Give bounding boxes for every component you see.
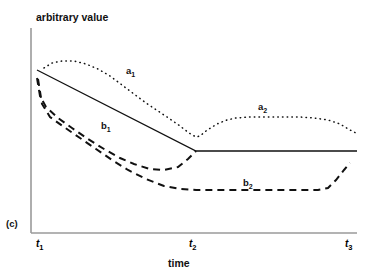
series-annotation-b1-subscript: 1: [107, 126, 111, 133]
series-dashed-b2: [38, 79, 350, 190]
panel-tag: (c): [6, 219, 18, 229]
series-annotation-b2-subscript: 2: [249, 183, 253, 190]
series-dotted-a1-a2: [44, 61, 356, 137]
x-tick-t2-subscript: 2: [192, 243, 196, 252]
series-annotation-a2-subscript: 2: [263, 107, 267, 114]
series-solid-reference: [37, 70, 357, 151]
x-axis-label: time: [168, 258, 190, 269]
chart-canvas: [0, 0, 369, 279]
series-annotation-b1: b1: [101, 120, 111, 133]
x-tick-t2: t2: [189, 238, 197, 252]
series-annotation-b2: b2: [243, 177, 253, 190]
series-annotation-a2: a2: [258, 101, 267, 114]
y-axis-label: arbitrary value: [36, 12, 108, 23]
series-annotation-a1-subscript: 1: [131, 71, 135, 78]
x-tick-t3: t3: [345, 238, 353, 252]
x-tick-t1-subscript: 1: [39, 243, 43, 252]
series-annotation-a1: a1: [126, 65, 135, 78]
x-tick-t1: t1: [36, 238, 44, 252]
figure-panel-c: arbitrary value time (c) t1 t2 t3 a1 a2 …: [0, 0, 369, 279]
x-tick-t3-subscript: 3: [348, 243, 352, 252]
